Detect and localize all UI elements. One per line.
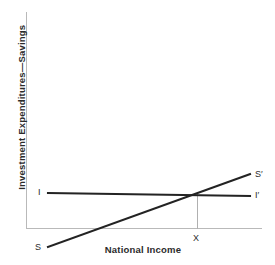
y-axis-title: Investment Expenditures—Savings: [17, 30, 27, 190]
investment-curve-end-label: I′: [255, 191, 259, 200]
chart-plot-area: [0, 0, 275, 265]
equilibrium-tick-label: X: [193, 234, 199, 243]
savings-curve-end-label: S′: [255, 170, 263, 179]
investment-curve-start-label: I: [38, 188, 41, 197]
savings-curve: [48, 174, 250, 247]
savings-investment-chart: Investment Expenditures—Savings National…: [0, 0, 275, 265]
x-axis-title: National Income: [83, 245, 203, 255]
investment-curve: [48, 193, 250, 196]
savings-curve-start-label: S: [35, 243, 41, 252]
